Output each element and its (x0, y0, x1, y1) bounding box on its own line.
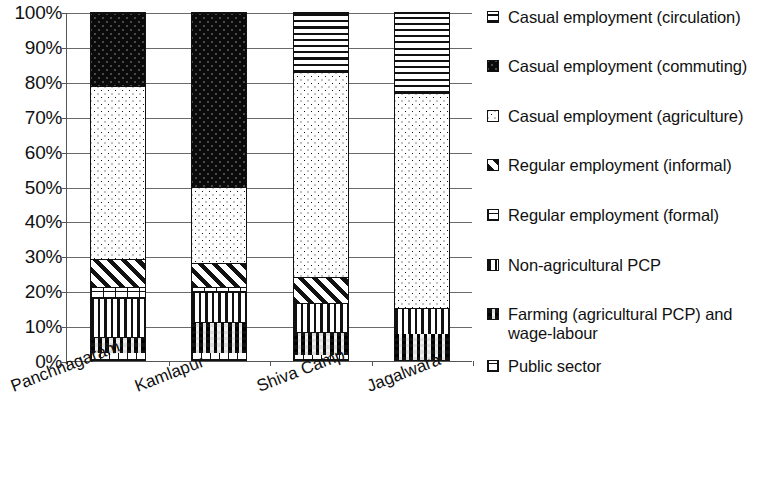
y-axis-tick (62, 188, 67, 189)
bar-segment[interactable] (91, 13, 145, 86)
bar-segment[interactable] (294, 72, 348, 277)
y-axis-tick (62, 48, 67, 49)
legend-item-label: Regular employment (formal) (508, 206, 719, 225)
y-axis-tick (62, 292, 67, 293)
bar-segment[interactable] (294, 13, 348, 72)
y-axis-tick-label: 90% (4, 37, 62, 59)
y-axis-labels: 100%90%80%70%60%50%40%30%20%10%0% (0, 0, 62, 380)
y-axis-tick-label: 30% (4, 246, 62, 268)
x-axis-tick (270, 361, 271, 366)
legend-swatch-icon (487, 11, 499, 23)
y-axis-tick (62, 257, 67, 258)
y-axis-tick-label: 10% (4, 316, 62, 338)
y-axis-tick (62, 118, 67, 119)
y-axis-tick-label: 70% (4, 107, 62, 129)
legend-item-label: Non-agricultural PCP (508, 256, 661, 275)
legend-swatch-icon (487, 360, 499, 372)
bar-panchnagaram[interactable] (90, 12, 146, 361)
y-axis-tick-label: 50% (4, 177, 62, 199)
legend-item-label: Public sector (508, 357, 601, 376)
legend-swatch-icon (487, 209, 499, 221)
legend-item-label: Casual employment (commuting) (508, 57, 747, 76)
bar-segment[interactable] (294, 277, 348, 303)
y-axis-tick-label: 100% (4, 2, 62, 24)
legend-swatch-icon (487, 308, 499, 320)
bar-segment[interactable] (91, 287, 145, 297)
bar-segment[interactable] (91, 259, 145, 287)
bar-segment[interactable] (192, 263, 246, 287)
legend-swatch-icon (487, 60, 499, 72)
legend-item[interactable]: Non-agricultural PCP (487, 256, 661, 275)
legend-item-label: Farming (agricultural PCP) and wage-labo… (508, 305, 732, 343)
legend-swatch-icon (487, 159, 499, 171)
legend-item[interactable]: Regular employment (informal) (487, 156, 732, 175)
y-axis-tick (62, 13, 67, 14)
legend-item[interactable]: Public sector (487, 357, 601, 376)
x-axis-tick (372, 361, 373, 366)
bar-shiva-camp[interactable] (293, 12, 349, 361)
legend-item[interactable]: Casual employment (circulation) (487, 8, 741, 27)
bar-jagalwara[interactable] (394, 12, 450, 361)
bar-kamlapur[interactable] (191, 12, 247, 361)
plot-area (66, 13, 472, 362)
bar-segment[interactable] (192, 292, 246, 322)
legend-item-label: Casual employment (circulation) (508, 8, 741, 27)
legend-item[interactable]: Regular employment (formal) (487, 206, 719, 225)
bar-segment[interactable] (192, 322, 246, 353)
y-axis-tick (62, 83, 67, 84)
legend-item[interactable]: Casual employment (agriculture) (487, 107, 743, 126)
bar-segment[interactable] (395, 93, 449, 308)
y-axis-tick (62, 327, 67, 328)
bar-segment[interactable] (192, 13, 246, 187)
legend-item-label: Regular employment (informal) (508, 156, 732, 175)
x-axis-tick (473, 361, 474, 366)
bar-segment[interactable] (294, 303, 348, 333)
bar-segment[interactable] (91, 86, 145, 260)
bar-segment[interactable] (395, 13, 449, 93)
chart-legend: Casual employment (circulation)Casual em… (487, 0, 763, 390)
y-axis-tick (62, 153, 67, 154)
y-axis-tick-label: 80% (4, 72, 62, 94)
y-axis-tick-label: 20% (4, 281, 62, 303)
legend-item[interactable]: Casual employment (commuting) (487, 57, 747, 76)
bar-segment[interactable] (395, 308, 449, 334)
y-axis-tick-label: 40% (4, 211, 62, 233)
y-axis-tick-label: 60% (4, 142, 62, 164)
legend-swatch-icon (487, 259, 499, 271)
bar-segment[interactable] (192, 287, 246, 292)
chart-container: 100%90%80%70%60%50%40%30%20%10%0% Panchn… (0, 0, 763, 477)
legend-swatch-icon (487, 110, 499, 122)
y-axis-tick (62, 222, 67, 223)
legend-item[interactable]: Farming (agricultural PCP) and wage-labo… (487, 305, 732, 343)
bar-segment[interactable] (91, 298, 145, 338)
bar-segment[interactable] (192, 187, 246, 263)
legend-item-label: Casual employment (agriculture) (508, 107, 743, 126)
